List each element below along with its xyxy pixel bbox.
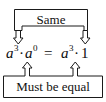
top-callout-group: Same	[14, 10, 91, 45]
equation-left-base-2: a	[25, 45, 33, 61]
top-right-down-arrow-icon	[81, 31, 91, 45]
equation-group: a 3 · a 0 = a 3 · 1	[6, 43, 89, 61]
equation-right-operator: ·	[74, 45, 79, 61]
top-callout-label: Same	[37, 12, 66, 27]
top-left-down-arrow-icon	[14, 31, 24, 45]
diagram-canvas: Same Must be equal a 3 · a 0 = a 3 ·	[0, 0, 106, 102]
equation-left-operator: ·	[19, 45, 24, 61]
equation-left-base-1: a	[6, 45, 14, 61]
equation-annotation-diagram: Same Must be equal a 3 · a 0 = a 3 ·	[0, 0, 106, 102]
bottom-callout-group: Must be equal	[4, 62, 103, 98]
equation-relation-sign: =	[44, 45, 52, 61]
equation-left-exponent-2: 0	[33, 43, 38, 53]
equation-right-value-2: 1	[81, 45, 89, 61]
bottom-callout-label: Must be equal	[16, 79, 90, 94]
equation-right-base-1: a	[61, 45, 69, 61]
